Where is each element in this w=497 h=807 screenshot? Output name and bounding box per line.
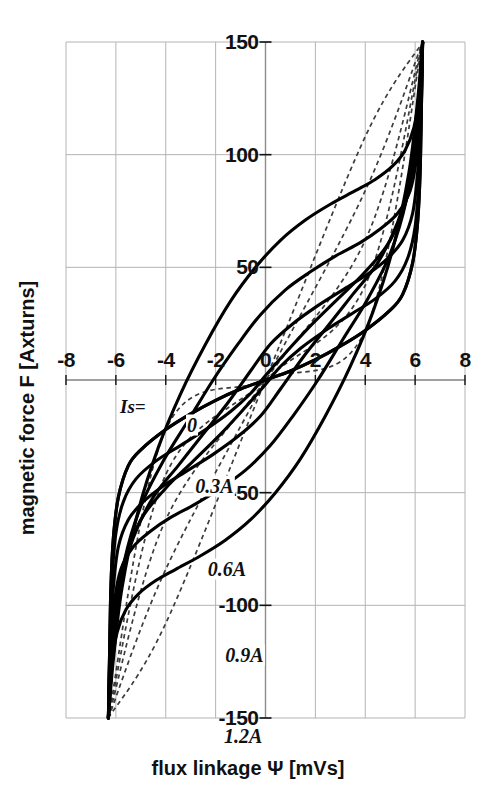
y-tick-label: -100 bbox=[218, 593, 265, 617]
y-tick-label: 150 bbox=[225, 30, 266, 54]
x-tick-label: -2 bbox=[207, 348, 225, 372]
curve-label-1-2A: 1.2A bbox=[223, 726, 263, 747]
y-tick-label: -50 bbox=[230, 481, 266, 505]
curve-label-0-3A: 0.3A bbox=[194, 475, 234, 496]
curve-label-0-9A: 0.9A bbox=[224, 644, 264, 665]
x-tick-label: -6 bbox=[107, 348, 125, 372]
x-tick-label: 0 bbox=[260, 348, 271, 372]
legend-key-label: Is= bbox=[119, 397, 147, 417]
y-axis-title: magnetic force F [Axturns] bbox=[16, 281, 39, 535]
hysteresis-figure: -8-6-4-202468 15010050-50-100-150 Is=00.… bbox=[0, 0, 497, 807]
curve-label-0-6A: 0.6A bbox=[207, 559, 247, 580]
x-tick-label: -4 bbox=[157, 348, 175, 372]
x-tick-label: 4 bbox=[360, 348, 371, 372]
y-tick-label: 50 bbox=[236, 255, 265, 279]
x-tick-label: -8 bbox=[57, 348, 75, 372]
x-tick-label: 8 bbox=[459, 348, 470, 372]
x-tick-label: 2 bbox=[310, 348, 321, 372]
curve-label-0: 0 bbox=[186, 415, 198, 436]
plot-canvas bbox=[0, 0, 497, 807]
x-tick-label: 6 bbox=[410, 348, 421, 372]
x-axis-title: flux linkage Ψ [mVs] bbox=[152, 757, 345, 780]
y-tick-label: 100 bbox=[225, 143, 266, 167]
